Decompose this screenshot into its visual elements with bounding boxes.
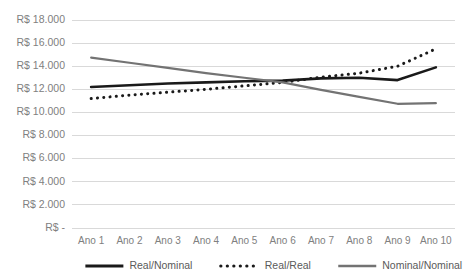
legend-item-label: Real/Real bbox=[265, 259, 311, 271]
gridlines bbox=[72, 20, 455, 228]
y-axis-tick-label: R$ 14.000 bbox=[17, 59, 66, 71]
y-axis-tick-label: R$ 2.000 bbox=[22, 198, 65, 210]
legend-item-label: Real/Nominal bbox=[129, 259, 192, 271]
x-axis-tick-label: Ano 6 bbox=[270, 235, 297, 246]
y-axis-tick-label: R$ 4.000 bbox=[22, 175, 65, 187]
legend-item-nominal-nominal[interactable]: Nominal/Nominal bbox=[338, 259, 462, 271]
y-axis-tick-label: R$ 12.000 bbox=[17, 82, 66, 94]
legend-item-label: Nominal/Nominal bbox=[382, 259, 462, 271]
y-axis-tick-label: R$ 10.000 bbox=[17, 105, 66, 117]
legend-item-real-nominal[interactable]: Real/Nominal bbox=[85, 259, 192, 271]
chart-canvas: R$ -R$ 2.000R$ 4.000R$ 6.000R$ 8.000R$ 1… bbox=[0, 0, 466, 279]
chart-legend: Real/NominalReal/RealNominal/Nominal bbox=[85, 259, 462, 271]
x-axis-tick-label: Ano 2 bbox=[116, 235, 143, 246]
x-axis-tick-label: Ano 5 bbox=[231, 235, 258, 246]
y-axis-tick-label: R$ 16.000 bbox=[17, 36, 66, 48]
x-axis-tick-label: Ano 3 bbox=[155, 235, 182, 246]
series-line-nominal-nominal bbox=[91, 58, 436, 104]
y-axis-tick-labels: R$ -R$ 2.000R$ 4.000R$ 6.000R$ 8.000R$ 1… bbox=[17, 13, 66, 233]
x-axis-tick-label: Ano 1 bbox=[78, 235, 105, 246]
y-axis-tick-label: R$ 18.000 bbox=[17, 13, 66, 25]
x-axis-tick-label: Ano 8 bbox=[346, 235, 373, 246]
series-line-real-nominal bbox=[91, 67, 436, 87]
line-chart: R$ -R$ 2.000R$ 4.000R$ 6.000R$ 8.000R$ 1… bbox=[0, 0, 466, 279]
y-axis-tick-label: R$ 6.000 bbox=[22, 151, 65, 163]
y-axis-tick-label: R$ 8.000 bbox=[22, 128, 65, 140]
x-axis-tick-label: Ano 7 bbox=[308, 235, 335, 246]
x-axis-tick-label: Ano 9 bbox=[384, 235, 411, 246]
x-axis-tick-labels: Ano 1Ano 2Ano 3Ano 4Ano 5Ano 6Ano 7Ano 8… bbox=[78, 235, 452, 246]
x-axis-tick-label: Ano 10 bbox=[420, 235, 452, 246]
x-axis-tick-label: Ano 4 bbox=[193, 235, 220, 246]
series-line-real-real bbox=[91, 49, 436, 99]
y-axis-tick-label: R$ - bbox=[45, 221, 65, 233]
data-series-layer bbox=[91, 49, 436, 104]
legend-item-real-real[interactable]: Real/Real bbox=[221, 259, 311, 271]
